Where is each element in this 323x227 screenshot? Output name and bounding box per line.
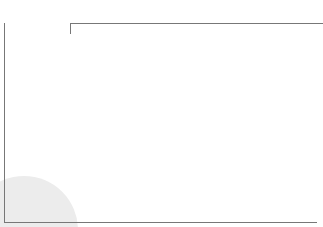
outer-bottom-border (4, 222, 317, 223)
plants-top-border (70, 23, 323, 24)
outer-left-border (4, 23, 5, 223)
facilities-highlight-circle (0, 176, 78, 227)
